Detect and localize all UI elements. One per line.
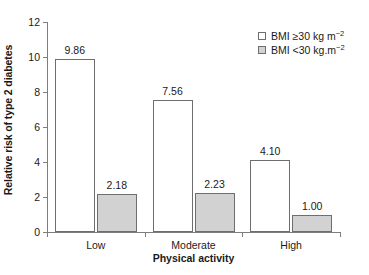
x-axis-title: Physical activity <box>47 252 340 264</box>
bar-value-label: 9.86 <box>65 45 85 56</box>
bar-chart-figure: Relative risk of type 2 diabetes 0246810… <box>0 0 369 275</box>
legend-swatch-icon <box>258 32 266 40</box>
bar <box>195 193 235 232</box>
legend: BMI ≥30 kg m−2BMI <30 kg.m−2 <box>258 29 345 57</box>
bar-value-label: 2.18 <box>107 180 127 191</box>
y-tick-label: 4 <box>34 157 40 168</box>
y-tick-label: 2 <box>34 192 40 203</box>
y-tick-mark <box>43 162 47 163</box>
y-tick-mark <box>43 127 47 128</box>
bar <box>97 194 137 232</box>
bar <box>153 100 193 232</box>
y-tick-mark <box>43 57 47 58</box>
clipped-header-text <box>28 0 348 6</box>
bar <box>250 160 290 232</box>
y-tick-mark <box>43 197 47 198</box>
y-tick-label: 0 <box>34 227 40 238</box>
y-tick-mark <box>43 92 47 93</box>
y-tick-label: 10 <box>28 52 40 63</box>
bar <box>55 59 95 232</box>
legend-item[interactable]: BMI <30 kg.m−2 <box>258 43 345 57</box>
y-tick-mark <box>43 22 47 23</box>
bar-value-label: 2.23 <box>204 179 224 190</box>
x-category-label: Moderate <box>171 240 215 251</box>
x-axis-line <box>47 232 340 233</box>
legend-label: BMI ≥30 kg m−2 <box>271 31 344 42</box>
legend-label-exponent: −2 <box>336 42 345 51</box>
y-tick-label: 12 <box>28 17 40 28</box>
bar-value-label: 7.56 <box>162 86 182 97</box>
x-tick-mark <box>145 232 146 237</box>
legend-item[interactable]: BMI ≥30 kg m−2 <box>258 29 345 43</box>
y-axis-title-label: Relative risk of type 2 diabetes <box>2 45 14 195</box>
y-axis-line <box>47 22 48 233</box>
y-tick-label: 6 <box>34 122 40 133</box>
x-tick-mark <box>47 232 48 237</box>
y-axis-title: Relative risk of type 2 diabetes <box>0 0 16 240</box>
legend-label-exponent: −2 <box>336 28 345 37</box>
bar-value-label: 1.00 <box>302 201 322 212</box>
x-category-label: High <box>280 240 302 251</box>
x-tick-mark <box>242 232 243 237</box>
legend-label: BMI <30 kg.m−2 <box>271 45 345 56</box>
bar-value-label: 4.10 <box>260 146 280 157</box>
bar <box>292 215 332 233</box>
x-category-label: Low <box>86 240 105 251</box>
y-tick-label: 8 <box>34 87 40 98</box>
x-tick-mark <box>340 232 341 237</box>
legend-swatch-icon <box>258 46 266 54</box>
